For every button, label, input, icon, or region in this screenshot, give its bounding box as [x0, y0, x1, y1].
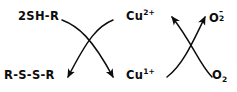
label-superoxide: O–2 [209, 11, 224, 25]
label-copper-i: Cu1+ [126, 70, 155, 82]
label-disulfide-text: R-S-S-R [4, 68, 55, 82]
label-dioxygen-base: O [212, 68, 222, 82]
label-copper-ii: Cu2+ [126, 11, 155, 23]
label-superoxide-affixes: –2 [219, 11, 224, 22]
arrow-thiol-to-copper-reduction [62, 20, 113, 77]
label-dioxygen: O2 [212, 70, 227, 82]
label-copper-i-base: Cu [126, 68, 143, 82]
label-superoxide-base: O [209, 11, 219, 25]
label-copper-ii-charge: 2+ [143, 8, 155, 17]
label-dioxygen-count: 2 [222, 75, 227, 84]
arrow-to-superoxide [167, 17, 205, 77]
label-superoxide-count: 2 [219, 15, 225, 23]
arrow-to-copper-ii [172, 17, 212, 77]
arrow-to-disulfide [68, 20, 113, 77]
label-copper-ii-base: Cu [126, 9, 143, 23]
label-disulfide: R-S-S-R [4, 70, 55, 82]
label-copper-i-charge: 1+ [143, 67, 155, 76]
reaction-scheme-diagram: 2SH-R R-S-S-R Cu2+ Cu1+ O–2 O2 [0, 0, 237, 92]
label-thiol: 2SH-R [18, 11, 59, 23]
label-thiol-text: 2SH-R [18, 9, 59, 23]
